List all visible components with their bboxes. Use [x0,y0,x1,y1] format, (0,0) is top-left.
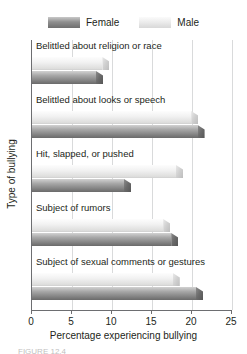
category-label: Hit, slapped, or pushed [36,148,134,159]
bar-female [32,233,171,246]
male-swatch-icon [139,17,171,28]
chart-legend: Female Male [0,14,247,30]
x-tick-5 [71,310,72,314]
bar-cap-female [124,179,131,192]
bar-female [32,179,124,192]
bar-group: Hit, slapped, or pushed [32,148,232,202]
bar-female [32,71,96,84]
legend-item-female: Female [48,17,119,28]
figure-caption: FIGURE 12.4 [18,347,66,354]
bar-group: Subject of sexual comments or gestures [32,256,232,310]
category-label: Subject of sexual comments or gestures [36,256,205,267]
x-tick-label-5: 5 [68,316,74,328]
bar-cap-male [102,57,109,70]
bar-male [32,57,102,70]
bar-group: Subject of rumors [32,202,232,256]
x-tick-15 [151,310,152,314]
y-axis-title: Type of bullying [6,114,18,234]
bar-group: Belittled about looks or speech [32,94,232,148]
bar-cap-male [163,219,170,232]
bar-cap-female [96,71,103,84]
legend-label-female: Female [86,17,119,28]
x-tick-label-25: 25 [225,316,236,328]
x-tick-0 [31,310,32,314]
bar-female [32,125,198,138]
plot-area: Belittled about religion or raceBelittle… [31,40,231,310]
bar-female [32,287,196,300]
legend-item-male: Male [139,17,199,28]
bar-cap-female [196,287,203,300]
bar-cap-male [191,111,198,124]
bar-male [32,273,173,286]
bar-male [32,165,176,178]
x-tick-10 [111,310,112,314]
bar-group: Belittled about religion or race [32,40,232,94]
bar-cap-female [198,125,205,138]
x-axis-line [31,310,231,311]
x-tick-20 [191,310,192,314]
bar-male [32,111,191,124]
category-label: Belittled about religion or race [36,40,162,51]
bar-cap-female [171,233,178,246]
female-swatch-icon [48,17,80,28]
bar-cap-male [176,165,183,178]
category-label: Belittled about looks or speech [36,94,165,105]
bar-cap-male [173,273,180,286]
x-tick-25 [231,310,232,314]
gridline-25 [232,40,233,310]
category-label: Subject of rumors [36,202,110,213]
bar-male [32,219,163,232]
x-tick-label-0: 0 [28,316,34,328]
x-axis-title: Percentage experiencing bullying [0,330,247,342]
x-tick-label-20: 20 [185,316,196,328]
legend-label-male: Male [177,17,199,28]
x-tick-label-15: 15 [145,316,156,328]
x-tick-label-10: 10 [105,316,116,328]
